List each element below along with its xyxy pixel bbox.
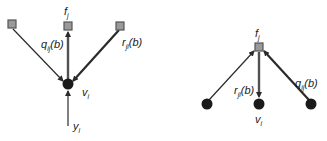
factor-node-right: [116, 22, 124, 30]
factor-graph-diagram: fj qij(b) rji(b) vi yi fj rji(b) qij(b) …: [0, 0, 327, 141]
variable-node-vi: [63, 79, 74, 90]
factor-node-left: [8, 20, 16, 28]
label-r-message: rji(b): [234, 84, 255, 99]
label-r-message: rji(b): [122, 36, 143, 51]
variable-node-left: [202, 99, 213, 110]
edge-factor-right-to-variable: [73, 30, 119, 81]
variable-node-right: [306, 99, 317, 110]
variable-node-vi: [254, 99, 265, 110]
label-vi: vi: [82, 86, 90, 100]
edge-variable-right-to-factor: [264, 51, 309, 100]
factor-node-fj: [255, 43, 263, 51]
label-fj: fj: [255, 27, 260, 42]
label-yi: yi: [72, 120, 81, 134]
edge-factor-left-to-variable: [13, 29, 63, 81]
right-panel: fj rji(b) qij(b) vi: [202, 27, 319, 127]
label-fj: fj: [64, 5, 69, 20]
label-vi: vi: [255, 113, 263, 127]
left-panel: fj qij(b) rji(b) vi yi: [8, 5, 143, 134]
label-q-message: qij(b): [41, 38, 64, 53]
factor-node-fj: [64, 22, 72, 30]
